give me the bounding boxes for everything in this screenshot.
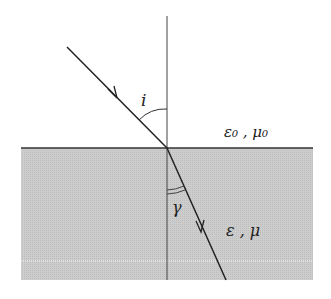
refraction-angle-label: γ bbox=[172, 198, 182, 217]
incidence-angle-arc bbox=[139, 109, 167, 120]
refraction-diagram: i γ ε₀ , μ₀ ε , μ bbox=[0, 0, 331, 299]
upper-medium-label: ε₀ , μ₀ bbox=[224, 123, 268, 141]
diagram-canvas: i γ ε₀ , μ₀ ε , μ bbox=[0, 0, 331, 299]
incidence-angle-label: i bbox=[141, 90, 146, 110]
lower-medium-label: ε , μ bbox=[226, 221, 260, 240]
